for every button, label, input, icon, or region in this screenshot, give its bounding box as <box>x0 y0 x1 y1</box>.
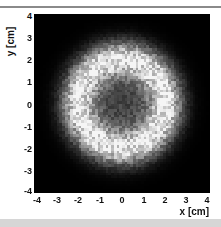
top-rule <box>0 6 221 8</box>
x-tick: -4 <box>30 196 44 205</box>
x-tick: 0 <box>115 196 129 205</box>
y-axis-label: y [cm] <box>5 27 16 56</box>
x-tick: 3 <box>179 196 193 205</box>
y-tick: -2 <box>24 145 32 154</box>
y-tick: -4 <box>24 187 32 196</box>
x-tick: 1 <box>137 196 151 205</box>
y-tick: 1 <box>27 78 32 87</box>
x-axis-label: x [cm] <box>180 206 209 217</box>
y-tick: 3 <box>27 34 32 43</box>
bottom-band <box>0 219 221 227</box>
y-tick: 4 <box>27 12 32 21</box>
x-tick: -1 <box>93 196 107 205</box>
y-tick: -3 <box>24 167 32 176</box>
x-tick: 4 <box>200 196 214 205</box>
y-tick: -1 <box>24 123 32 132</box>
x-tick: -3 <box>50 196 64 205</box>
y-tick: 2 <box>27 56 32 65</box>
x-tick: -2 <box>71 196 85 205</box>
y-tick: 0 <box>27 101 32 110</box>
ring-heatmap <box>35 15 209 192</box>
x-tick: 2 <box>158 196 172 205</box>
